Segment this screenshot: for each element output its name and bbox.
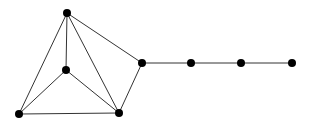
edge-center-bottom-left: [19, 70, 66, 114]
edge-top-bottom-right: [67, 13, 119, 113]
edge-top-center: [66, 13, 67, 70]
node-chain-3: [288, 59, 296, 67]
node-chain-1: [187, 59, 195, 67]
node-bottom-right: [115, 109, 123, 117]
node-bottom-left: [15, 110, 23, 118]
node-chain-2: [237, 59, 245, 67]
edge-center-bottom-right: [66, 70, 119, 113]
graph-diagram: [0, 0, 311, 125]
edge-bottom-right-hub: [119, 63, 142, 113]
node-hub: [138, 59, 146, 67]
graph-edges: [19, 13, 292, 114]
node-top: [63, 9, 71, 17]
edge-top-hub: [67, 13, 142, 63]
edge-bottom-left-bottom-right: [19, 113, 119, 114]
node-center: [62, 66, 70, 74]
edge-top-bottom-left: [19, 13, 67, 114]
